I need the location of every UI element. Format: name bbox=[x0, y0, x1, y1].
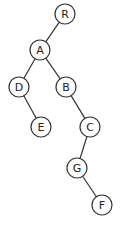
node-label: C bbox=[86, 121, 94, 134]
edge-r-a bbox=[46, 22, 60, 42]
node-f: F bbox=[92, 195, 112, 215]
node-c: C bbox=[80, 117, 100, 137]
tree-diagram: RADBECGF bbox=[0, 0, 125, 229]
edge-a-b bbox=[46, 58, 61, 79]
node-label: F bbox=[99, 199, 105, 212]
edge-a-d bbox=[24, 59, 35, 79]
node-label: G bbox=[73, 162, 82, 175]
edge-c-g bbox=[80, 137, 87, 159]
node-label: E bbox=[38, 121, 45, 134]
node-label: R bbox=[61, 8, 69, 21]
node-d: D bbox=[9, 77, 29, 97]
node-label: B bbox=[62, 81, 70, 94]
edge-g-f bbox=[83, 176, 97, 196]
node-b: B bbox=[56, 77, 76, 97]
node-r: R bbox=[55, 4, 75, 24]
node-label: A bbox=[36, 44, 44, 57]
node-g: G bbox=[67, 158, 87, 178]
tree-nodes: RADBECGF bbox=[9, 4, 112, 215]
node-e: E bbox=[31, 117, 51, 137]
edge-d-e bbox=[24, 96, 36, 118]
node-a: A bbox=[30, 40, 50, 60]
edge-b-c bbox=[71, 96, 85, 119]
node-label: D bbox=[15, 81, 23, 94]
